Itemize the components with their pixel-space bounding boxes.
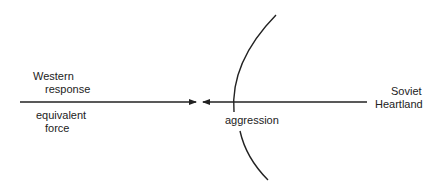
equivalent-label-line2: force <box>45 122 69 135</box>
diagram-canvas <box>0 0 442 194</box>
soviet-label-line2: Heartland <box>375 98 423 111</box>
equivalent-label-line1: equivalent <box>36 109 86 122</box>
aggression-label: aggression <box>225 114 279 127</box>
soviet-label-line1: Soviet <box>391 85 422 98</box>
containment-arc-upper <box>234 15 276 112</box>
containment-arc-lower <box>240 131 268 180</box>
western-label-line1: Western <box>33 70 74 83</box>
western-label-line2: response <box>45 83 90 96</box>
